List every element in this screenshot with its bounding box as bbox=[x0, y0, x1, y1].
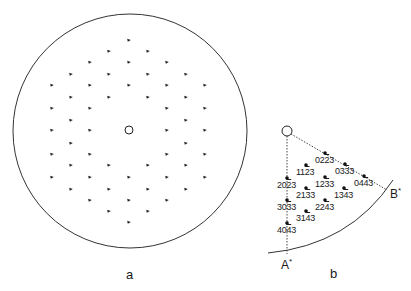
diffraction-spot bbox=[50, 84, 54, 87]
reflection-index-label: 3143 bbox=[296, 214, 315, 223]
diffraction-spots bbox=[50, 39, 207, 224]
reflection-index-label: 0333 bbox=[335, 167, 354, 176]
origin-marker bbox=[282, 126, 292, 136]
reflection-index-label: 4043 bbox=[277, 226, 296, 235]
diffraction-spot bbox=[146, 210, 150, 213]
diffraction-spot bbox=[184, 164, 188, 167]
a-star-label: A* bbox=[281, 258, 292, 271]
diffraction-spot bbox=[184, 73, 188, 76]
reflection-index-label: 1343 bbox=[334, 191, 353, 200]
diffraction-spot bbox=[203, 84, 207, 87]
diffraction-spot bbox=[50, 107, 54, 110]
diffraction-spot bbox=[107, 188, 111, 191]
diffraction-spot bbox=[146, 164, 150, 167]
diffraction-spot bbox=[127, 221, 131, 224]
diffraction-spot bbox=[165, 107, 169, 110]
diffraction-spot bbox=[50, 176, 54, 179]
diffraction-spot bbox=[107, 164, 111, 167]
diffraction-spot bbox=[127, 61, 131, 64]
panel-label-b: b bbox=[330, 267, 337, 280]
diffraction-spot bbox=[184, 188, 188, 191]
diffraction-spot bbox=[88, 107, 92, 110]
reflection-index-label: 1233 bbox=[315, 180, 334, 189]
diffraction-spot bbox=[127, 176, 131, 179]
diffraction-spot bbox=[146, 73, 150, 76]
diffraction-spot bbox=[203, 153, 207, 156]
diffraction-spot bbox=[165, 84, 169, 87]
diffraction-figure bbox=[0, 0, 411, 291]
diffraction-spot bbox=[88, 199, 92, 202]
diffraction-spot bbox=[69, 142, 73, 145]
diffraction-spot bbox=[107, 50, 111, 53]
reflection-index-label: 1123 bbox=[296, 168, 314, 177]
diffraction-spot bbox=[203, 107, 207, 110]
diffraction-spot bbox=[184, 96, 188, 99]
diffraction-spot bbox=[127, 39, 131, 42]
center-beam-marker bbox=[125, 126, 133, 134]
reflection-index-label: 2133 bbox=[296, 191, 315, 200]
diffraction-spot bbox=[127, 199, 131, 202]
diffraction-spot bbox=[88, 153, 92, 156]
diffraction-spot bbox=[50, 129, 54, 132]
diffraction-spot bbox=[146, 188, 150, 191]
reflection-index-label: 3033 bbox=[277, 203, 296, 212]
diffraction-spot bbox=[107, 73, 111, 76]
diffraction-spot bbox=[107, 96, 111, 99]
diffraction-spot bbox=[107, 210, 111, 213]
diffraction-spot bbox=[165, 199, 169, 202]
diffraction-spot bbox=[165, 129, 169, 132]
diffraction-spot bbox=[69, 119, 73, 122]
diffraction-spot bbox=[127, 84, 131, 87]
diffraction-spot bbox=[88, 61, 92, 64]
reflection-index-label: 2243 bbox=[315, 203, 334, 212]
diffraction-spot bbox=[203, 129, 207, 132]
outer-pattern-circle bbox=[13, 14, 247, 248]
diffraction-spot bbox=[69, 96, 73, 99]
diffraction-spot bbox=[69, 164, 73, 167]
diffraction-spot bbox=[88, 176, 92, 179]
reflection-index-label: 0443 bbox=[354, 179, 373, 188]
diffraction-spot bbox=[69, 188, 73, 191]
reflection-index-label: 2023 bbox=[277, 181, 296, 190]
diffraction-spot bbox=[165, 176, 169, 179]
diffraction-spot bbox=[146, 96, 150, 99]
diffraction-spot bbox=[203, 176, 207, 179]
diffraction-spot bbox=[88, 129, 92, 132]
diffraction-spot bbox=[88, 84, 92, 87]
diffraction-spot bbox=[165, 153, 169, 156]
panel-label-a: a bbox=[126, 268, 133, 281]
diffraction-spot bbox=[50, 153, 54, 156]
reflection-index-label: 0223 bbox=[315, 156, 334, 165]
b-star-label: B* bbox=[390, 187, 401, 200]
diffraction-spot bbox=[165, 61, 169, 64]
diffraction-spot bbox=[69, 73, 73, 76]
diffraction-spot bbox=[146, 50, 150, 53]
diffraction-spot bbox=[184, 142, 188, 145]
diffraction-spot bbox=[184, 119, 188, 122]
